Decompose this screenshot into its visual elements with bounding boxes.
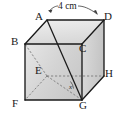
vertex-label-G: G	[79, 100, 87, 111]
vertex-label-F: F	[12, 98, 18, 109]
dimension-label-4cm: 4 cm	[58, 2, 77, 12]
vertex-label-E: E	[35, 65, 42, 76]
vertex-label-D: D	[104, 11, 112, 22]
vertex-label-C: C	[79, 43, 86, 54]
vertex-label-B: B	[11, 36, 18, 47]
face-front	[25, 44, 82, 100]
vertex-label-A: A	[35, 11, 43, 22]
vertex-label-H: H	[105, 68, 113, 79]
angle-label-x: x	[69, 84, 72, 91]
cube-geometry-figure: A D B C E H F G x 4 cm	[0, 0, 118, 117]
